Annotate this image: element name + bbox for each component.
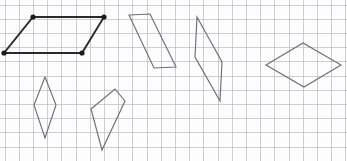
- grid-layer: [0, 0, 347, 161]
- grid-vertical-lines: [5, 0, 346, 161]
- grid-horizontal-lines: [0, 5, 347, 161]
- worksheet-canvas: [0, 0, 347, 161]
